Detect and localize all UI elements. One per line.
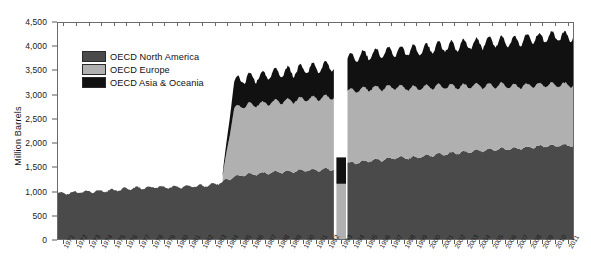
x-top-tick-mark (126, 22, 127, 26)
legend-label-asia-oceania: OECD Asia & Oceania (110, 78, 204, 88)
x-top-tick-mark (379, 22, 380, 26)
x-top-tick-mark (139, 22, 140, 26)
anomaly-europe (336, 184, 346, 239)
x-top-tick-mark (290, 22, 291, 26)
y-tick-label: 4,000 (25, 41, 47, 51)
x-top-tick-mark (177, 22, 178, 26)
x-top-tick-mark (442, 22, 443, 26)
y-tick-label: 1,000 (25, 187, 47, 197)
area-band-europe (223, 95, 334, 182)
legend-item-europe: OECD Europe (82, 63, 204, 76)
x-top-tick-mark (454, 22, 455, 26)
y-tick-label: 4,500 (25, 17, 47, 27)
legend-item-asia-oceania: OECD Asia & Oceania (82, 76, 204, 89)
x-top-tick-mark (152, 22, 153, 26)
legend-label-europe: OECD Europe (110, 65, 170, 75)
y-tick-label: 2,000 (25, 138, 47, 148)
x-top-tick-mark (202, 22, 203, 26)
legend-item-north-america: OECD North America (82, 50, 204, 63)
x-top-tick-mark (542, 22, 543, 26)
x-top-tick-mark (101, 22, 102, 26)
y-tick-label: 2,500 (25, 114, 47, 124)
x-top-tick-mark (391, 22, 392, 26)
legend-swatch-asia-oceania (82, 77, 106, 88)
y-axis-title: Million Barrels (13, 88, 23, 184)
x-top-tick-mark (76, 22, 77, 26)
y-tick-label: 1,500 (25, 162, 47, 172)
x-top-tick-mark (429, 22, 430, 26)
anomaly-asia-oceania (336, 157, 346, 183)
x-top-tick-mark (479, 22, 480, 26)
x-top-tick-mark (341, 22, 342, 26)
x-top-tick-mark (555, 22, 556, 26)
x-top-tick-mark (416, 22, 417, 26)
x-top-tick-mark (404, 22, 405, 26)
x-top-tick-mark (114, 22, 115, 26)
x-top-tick-mark (353, 22, 354, 26)
x-top-tick-mark (215, 22, 216, 26)
legend-label-north-america: OECD North America (110, 52, 199, 62)
y-tick-label: 500 (33, 211, 47, 221)
y-tick-label: 3,000 (25, 90, 47, 100)
x-top-tick-mark (227, 22, 228, 26)
x-top-tick-mark (278, 22, 279, 26)
x-top-tick-mark (316, 22, 317, 26)
chart-legend: OECD North America OECD Europe OECD Asia… (79, 48, 207, 91)
x-top-tick-mark (467, 22, 468, 26)
y-tick-label: 3,500 (25, 65, 47, 75)
x-axis: 1971197219731974197519761977197819791980… (57, 240, 574, 277)
x-top-tick-mark (517, 22, 518, 26)
x-top-tick-mark (328, 22, 329, 26)
stacked-area-chart: Million Barrels 05001,0001,5002,0002,500… (0, 0, 591, 277)
x-top-tick-mark (366, 22, 367, 26)
y-tick-label: 0 (42, 235, 47, 245)
legend-swatch-europe (82, 64, 106, 75)
x-top-tick-mark (164, 22, 165, 26)
x-top-tick-mark (63, 22, 64, 26)
legend-swatch-north-america (82, 51, 106, 62)
x-top-tick-mark (303, 22, 304, 26)
x-top-tick-mark (568, 22, 569, 26)
x-top-tick-mark (240, 22, 241, 26)
x-top-tick-mark (89, 22, 90, 26)
x-top-tick-mark (492, 22, 493, 26)
x-top-tick-mark (530, 22, 531, 26)
x-top-tick-mark (505, 22, 506, 26)
x-top-tick-mark (189, 22, 190, 26)
x-top-tick-mark (265, 22, 266, 26)
x-top-tick-mark (252, 22, 253, 26)
area-band-north-america (58, 168, 334, 239)
y-axis: Million Barrels 05001,0001,5002,0002,500… (0, 0, 57, 277)
